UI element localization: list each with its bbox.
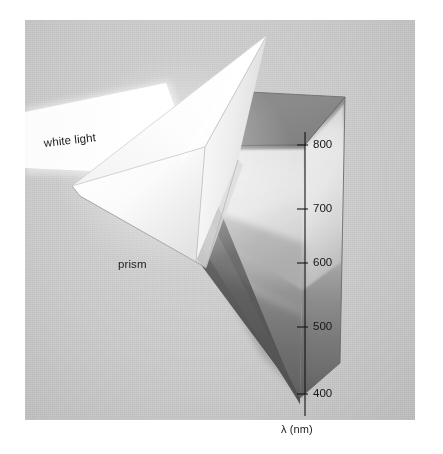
prism-dispersion-figure: white light prism λ (nm) 800 700 600 500… (0, 0, 443, 454)
axis-title-label: λ (nm) (281, 424, 313, 435)
axis-tick-label-600: 600 (313, 257, 332, 269)
axis-tick-label-700: 700 (313, 203, 332, 215)
axis-tick-label-500: 500 (313, 321, 332, 333)
axis-tick-label-800: 800 (313, 139, 332, 151)
prism-label: prism (118, 259, 147, 271)
axis-tick-label-400: 400 (313, 388, 332, 400)
scene-vector-layer (0, 0, 443, 454)
